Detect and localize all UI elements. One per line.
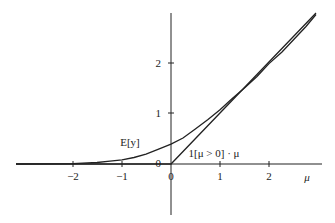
y-tick-label: 2 (156, 57, 162, 69)
relu-line (16, 13, 316, 164)
curve-label-relu: 1[μ > 0] · μ (189, 147, 240, 159)
x-tick-label: −2 (67, 170, 79, 182)
expected-value-curve (16, 15, 316, 165)
x-axis-label: μ (303, 171, 310, 183)
y-tick-label-origin: 0 (156, 157, 162, 169)
y-tick-label: 1 (156, 107, 162, 119)
x-tick-label: 1 (217, 170, 223, 182)
curve-label-ey: E[y] (120, 136, 140, 148)
chart-canvas: −2 −1 0 1 2 0 1 2 μ E[y] 1[μ > 0] · μ (0, 0, 335, 223)
x-tick-label: 0 (168, 170, 174, 182)
x-tick-label: 2 (266, 170, 272, 182)
x-tick-label: −1 (116, 170, 128, 182)
